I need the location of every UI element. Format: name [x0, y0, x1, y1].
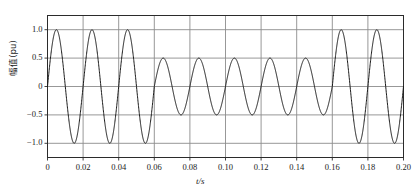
y-tick-label: 1.0 — [3, 24, 43, 34]
y-tick-label: 0.5 — [3, 52, 43, 62]
x-tick-label: 0.20 — [384, 162, 419, 172]
x-tick-label: 0.14 — [277, 162, 317, 172]
x-tick-label: 0.02 — [63, 162, 103, 172]
x-tick-label: 0.08 — [170, 162, 210, 172]
x-tick-label: 0 — [28, 162, 68, 172]
x-tick-label: 0.12 — [241, 162, 281, 172]
x-tick-label: 0.06 — [134, 162, 174, 172]
x-tick-label: 0.16 — [312, 162, 352, 172]
y-tick-label: 0 — [3, 81, 43, 91]
x-tick-label: 0.04 — [99, 162, 139, 172]
y-tick-label: −0.5 — [3, 109, 43, 119]
x-tick-label: 0.18 — [348, 162, 388, 172]
y-tick-label: −1.0 — [3, 137, 43, 147]
x-tick-label: 0.10 — [206, 162, 246, 172]
